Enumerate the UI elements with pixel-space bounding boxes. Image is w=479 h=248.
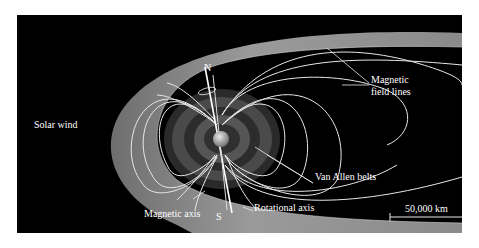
magnetic-field-lines-label-2: field lines	[371, 86, 411, 97]
magnetosphere-diagram: N S Solar wind Magnetic field lines Van …	[17, 15, 462, 233]
magnetic-field-lines-label-1: Magnetic	[371, 74, 409, 85]
van-allen-belts-label: Van Allen belts	[315, 171, 376, 182]
earth	[213, 131, 229, 147]
magnetic-axis-label: Magnetic axis	[144, 208, 200, 219]
rotational-axis-label: Rotational axis	[254, 202, 314, 213]
scale-bar-label: 50,000 km	[405, 203, 448, 214]
north-pole-label: N	[204, 62, 211, 73]
solar-wind-label: Solar wind	[34, 119, 78, 130]
south-pole-label: S	[216, 211, 222, 222]
